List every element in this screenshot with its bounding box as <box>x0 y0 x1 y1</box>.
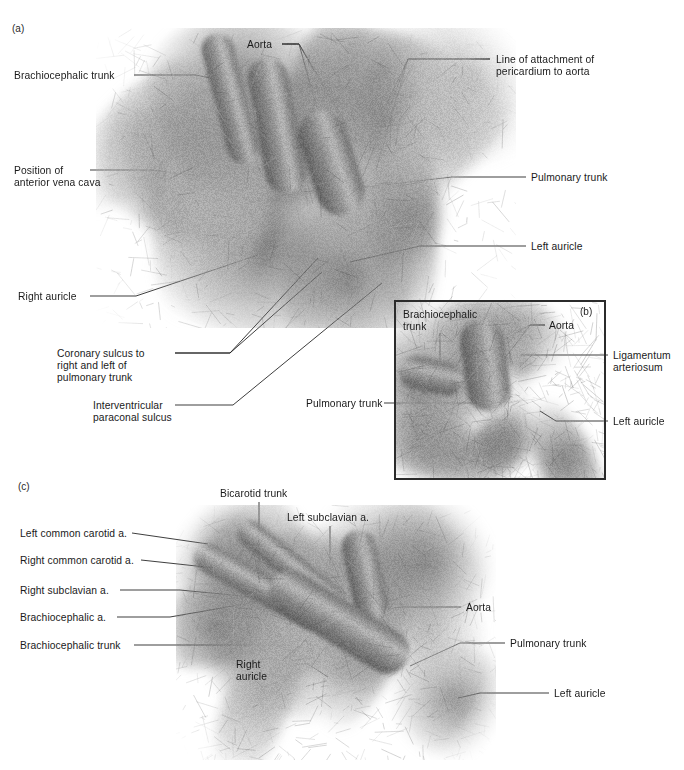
label-brachiocephalic-trunk: Brachiocephalic trunk <box>14 70 115 82</box>
label-right-auricle-a: Right auricle <box>18 291 77 303</box>
label-right-subclavian-a: Right subclavian a. <box>20 585 109 597</box>
label-right-common-carotid-a: Right common carotid a. <box>20 555 134 567</box>
label-right-auricle-c: Right auricle <box>236 659 267 683</box>
label-pulmonary-trunk-b: Pulmonary trunk <box>306 398 382 410</box>
label-aorta-c: Aorta <box>466 602 491 614</box>
label-aorta-b: Aorta <box>549 320 574 332</box>
specimen-photo-c <box>176 505 496 760</box>
label-left-auricle-c: Left auricle <box>554 688 606 700</box>
label-interventricular-paraconal-sulcus: Interventricular paraconal sulcus <box>93 400 172 424</box>
label-left-auricle-b: Left auricle <box>613 416 665 428</box>
label-left-auricle-a: Left auricle <box>531 241 583 253</box>
panel-tag-a: (a) <box>12 23 24 34</box>
anatomy-figure: (a)Brachiocephalic trunkAortaLine of att… <box>0 0 684 770</box>
panel-tag-b: (b) <box>580 306 592 317</box>
label-position-of-anterior-vena-cava: Position of anterior vena cava <box>14 165 101 189</box>
label-coronary-sulcus: Coronary sulcus to right and left of pul… <box>57 348 145 385</box>
label-pulmonary-trunk-a: Pulmonary trunk <box>531 172 607 184</box>
label-brachiocephalic-a: Brachiocephalic a. <box>20 612 106 624</box>
label-line-of-attachment: Line of attachment of pericardium to aor… <box>496 54 594 78</box>
label-bicarotid-trunk: Bicarotid trunk <box>220 488 287 500</box>
label-brachiocephalic-trunk-b: Brachiocephalic trunk <box>403 309 477 333</box>
panel-tag-c: (c) <box>18 481 30 492</box>
label-left-subclavian-a: Left subclavian a. <box>287 512 369 524</box>
label-pulmonary-trunk-c: Pulmonary trunk <box>510 638 586 650</box>
specimen-photo-a <box>96 28 516 328</box>
label-aorta: Aorta <box>247 39 272 51</box>
label-ligamentum-arteriosum: Ligamentum arteriosum <box>613 350 671 374</box>
label-brachiocephalic-trunk-c: Brachiocephalic trunk <box>20 640 121 652</box>
label-left-common-carotid-a: Left common carotid a. <box>20 528 127 540</box>
